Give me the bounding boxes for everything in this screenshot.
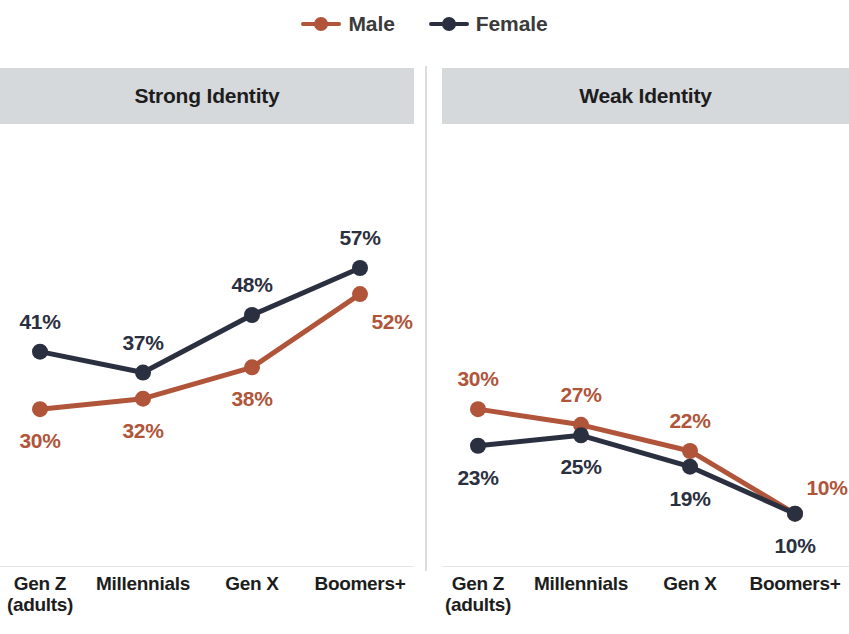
data-point-marker: [352, 286, 368, 302]
legend-dot-female: [442, 17, 456, 31]
value-label: 10%: [774, 534, 815, 558]
x-axis-tick-label: Gen Z(adults): [445, 574, 511, 615]
value-label: 30%: [457, 367, 498, 391]
value-label: 57%: [339, 226, 380, 250]
data-point-marker: [573, 427, 589, 443]
value-label: 32%: [122, 419, 163, 443]
series-line-female: [470, 427, 803, 521]
legend-dot-male: [314, 17, 328, 31]
x-axis-strong-identity: Gen Z(adults)MillennialsGen XBoomers+: [0, 574, 414, 634]
series-path: [478, 435, 795, 513]
value-label: 38%: [231, 387, 272, 411]
x-axis-weak-identity: Gen Z(adults)MillennialsGen XBoomers+: [442, 574, 849, 634]
x-axis-tick-label: Millennials: [96, 574, 190, 595]
x-axis-line: [442, 566, 849, 567]
data-point-marker: [135, 391, 151, 407]
data-point-marker: [682, 443, 698, 459]
value-label: 27%: [560, 383, 601, 407]
data-point-marker: [32, 401, 48, 417]
x-tick-line-1: Gen Z: [445, 574, 511, 595]
x-tick-line-1: Gen X: [663, 574, 716, 595]
data-point-marker: [352, 260, 368, 276]
data-point-marker: [682, 459, 698, 475]
data-point-marker: [470, 401, 486, 417]
x-tick-line-1: Boomers+: [314, 574, 405, 595]
x-axis-tick-label: Millennials: [534, 574, 628, 595]
value-label: 19%: [669, 487, 710, 511]
x-tick-line-1: Boomers+: [749, 574, 840, 595]
series-path: [478, 409, 795, 514]
plot-area-strong-identity: [0, 62, 414, 572]
line-dot-marker-icon: [301, 15, 341, 33]
x-tick-line-2: (adults): [445, 595, 511, 616]
value-label: 41%: [19, 310, 60, 334]
data-point-marker: [244, 359, 260, 375]
x-tick-line-2: (adults): [7, 595, 73, 616]
chart-panel-weak-identity: Weak Identity 30%27%22%10%23%25%19%10% G…: [442, 62, 849, 634]
data-point-marker: [787, 506, 803, 522]
panel-divider: [425, 66, 427, 571]
chart-legend: Male Female: [0, 0, 849, 48]
data-point-marker: [135, 365, 151, 381]
x-axis-tick-label: Gen X: [663, 574, 716, 595]
legend-item-female: Female: [429, 12, 548, 36]
value-label: 25%: [560, 455, 601, 479]
x-axis-tick-label: Boomers+: [314, 574, 405, 595]
value-label: 30%: [19, 429, 60, 453]
line-dot-marker-icon: [429, 15, 469, 33]
series-line-male: [470, 401, 803, 522]
value-label: 10%: [806, 476, 847, 500]
line-chart-svg-strong-identity: [0, 62, 414, 572]
legend-item-male: Male: [301, 12, 394, 36]
x-tick-line-1: Gen X: [225, 574, 278, 595]
x-axis-tick-label: Boomers+: [749, 574, 840, 595]
series-path: [40, 268, 360, 373]
line-chart-svg-weak-identity: [442, 62, 849, 572]
plot-area-weak-identity: [442, 62, 849, 572]
data-point-marker: [244, 307, 260, 323]
x-axis-tick-label: Gen Z(adults): [7, 574, 73, 615]
value-label: 52%: [371, 310, 412, 334]
value-label: 22%: [669, 409, 710, 433]
data-point-marker: [32, 344, 48, 360]
value-label: 23%: [457, 466, 498, 490]
legend-label-male: Male: [348, 12, 394, 36]
value-label: 48%: [231, 273, 272, 297]
x-axis-tick-label: Gen X: [225, 574, 278, 595]
x-axis-line: [0, 566, 414, 567]
series-path: [40, 294, 360, 409]
value-label: 37%: [122, 331, 163, 355]
data-point-marker: [470, 438, 486, 454]
series-line-male: [32, 286, 368, 417]
x-tick-line-1: Millennials: [96, 574, 190, 595]
x-tick-line-1: Millennials: [534, 574, 628, 595]
chart-panel-strong-identity: Strong Identity 30%32%38%52%41%37%48%57%…: [0, 62, 414, 634]
x-tick-line-1: Gen Z: [7, 574, 73, 595]
legend-label-female: Female: [476, 12, 548, 36]
